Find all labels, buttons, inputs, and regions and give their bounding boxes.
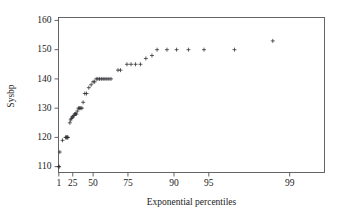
data-point — [175, 48, 179, 52]
data-point — [155, 48, 159, 52]
data-point — [232, 48, 236, 52]
x-tick-label: 75 — [123, 178, 133, 188]
data-point — [134, 62, 138, 66]
data-point — [202, 48, 206, 52]
data-point — [60, 138, 64, 142]
data-point — [125, 62, 129, 66]
data-point-markers — [57, 39, 275, 169]
data-point — [144, 56, 148, 60]
data-point — [165, 48, 169, 52]
y-axis-ticks: 110120130140150160 — [37, 15, 58, 171]
x-tick-label: 1 — [56, 178, 61, 188]
x-tick-label: 95 — [204, 178, 214, 188]
x-axis-label: Exponential percentiles — [147, 197, 237, 207]
data-point — [118, 68, 122, 72]
x-tick-label: 50 — [88, 178, 98, 188]
data-point — [109, 77, 113, 81]
data-point — [68, 121, 72, 125]
data-point — [186, 48, 190, 52]
x-tick-label: 99 — [285, 178, 295, 188]
data-point — [138, 62, 142, 66]
y-tick-label: 130 — [37, 103, 52, 113]
x-axis-ticks: 1255075909599 — [56, 173, 294, 188]
data-point — [87, 86, 91, 90]
y-tick-label: 110 — [38, 161, 52, 171]
x-tick-label: 90 — [169, 178, 179, 188]
x-tick-label: 25 — [68, 178, 78, 188]
data-point — [129, 62, 133, 66]
data-point — [271, 39, 275, 43]
chart-figure: 110120130140150160 1255075909599 Exponen… — [0, 0, 345, 216]
y-tick-label: 150 — [37, 44, 52, 54]
y-axis-label: Sysbp — [6, 84, 16, 107]
data-point — [57, 165, 61, 169]
quantile-plot-svg: 110120130140150160 1255075909599 Exponen… — [0, 0, 345, 216]
data-point — [150, 54, 154, 58]
data-point — [89, 83, 93, 87]
y-tick-label: 140 — [37, 74, 52, 84]
plot-frame — [59, 18, 325, 173]
y-tick-label: 160 — [37, 15, 52, 25]
data-point — [81, 100, 85, 104]
y-tick-label: 120 — [37, 132, 52, 142]
